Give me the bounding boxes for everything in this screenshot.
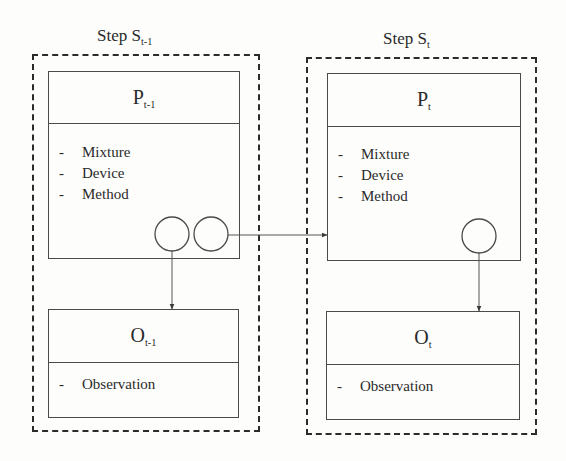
observation-item: -Observation xyxy=(337,376,433,397)
process-item: -Method xyxy=(338,186,409,207)
process-item: -Mixture xyxy=(338,144,409,165)
process-label-prev: Pt-1 xyxy=(133,86,156,110)
process-box-prev: Pt-1 -Mixture -Device -Method xyxy=(48,71,240,259)
process-item: -Device xyxy=(59,163,130,184)
process-items-prev: -Mixture -Device -Method xyxy=(59,142,130,205)
observation-items-prev: -Observation xyxy=(59,374,155,395)
process-items-curr: -Mixture -Device -Method xyxy=(338,144,409,207)
process-box-curr: Pt -Mixture -Device -Method xyxy=(327,73,521,261)
observation-items-curr: -Observation xyxy=(337,376,433,397)
process-label-curr: Pt xyxy=(417,88,431,112)
observation-header-prev: Ot-1 xyxy=(49,310,238,363)
step-title-curr: Step St xyxy=(383,29,430,50)
observation-label-prev: Ot-1 xyxy=(131,324,157,348)
process-item: -Mixture xyxy=(59,142,130,163)
process-item: -Device xyxy=(338,165,409,186)
observation-box-prev: Ot-1 -Observation xyxy=(48,309,239,418)
observation-header-curr: Ot xyxy=(327,312,519,365)
process-item: -Method xyxy=(59,184,130,205)
process-header-prev: Pt-1 xyxy=(49,72,239,124)
observation-box-curr: Ot -Observation xyxy=(326,311,520,420)
observation-item: -Observation xyxy=(59,374,155,395)
observation-label-curr: Ot xyxy=(414,326,431,350)
step-title-prev: Step St-1 xyxy=(97,26,152,47)
process-header-curr: Pt xyxy=(328,74,520,127)
